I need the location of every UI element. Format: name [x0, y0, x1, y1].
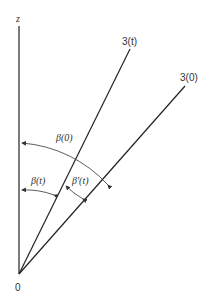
z-axis-label: z: [15, 13, 20, 24]
diagram-canvas: z 0 3(t) 3(0) β(0) β(t) β'(t): [0, 0, 211, 298]
beta-0-label: β(0): [55, 132, 73, 144]
arc-beta-t: [22, 190, 54, 195]
line-30-label: 3(0): [180, 72, 198, 83]
beta-t-label: β(t): [30, 175, 46, 187]
beta-prime-t-label: β'(t): [71, 175, 89, 187]
line-3t: [19, 49, 130, 274]
line-3t-label: 3(t): [122, 36, 137, 47]
arc-beta-prime-t: [66, 186, 83, 199]
origin-label: 0: [15, 282, 21, 293]
